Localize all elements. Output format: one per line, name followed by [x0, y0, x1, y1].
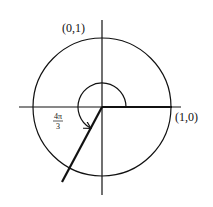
- label-top-point: (0,1): [62, 21, 85, 35]
- terminal-side-ray: [62, 107, 102, 182]
- label-right-point: (1,0): [175, 110, 198, 124]
- unit-circle-diagram: (0,1) (1,0) 4π 3: [0, 0, 213, 207]
- angle-label-denominator: 3: [56, 122, 60, 131]
- angle-label-numerator: 4π: [54, 112, 62, 121]
- angle-label: 4π 3: [53, 112, 63, 131]
